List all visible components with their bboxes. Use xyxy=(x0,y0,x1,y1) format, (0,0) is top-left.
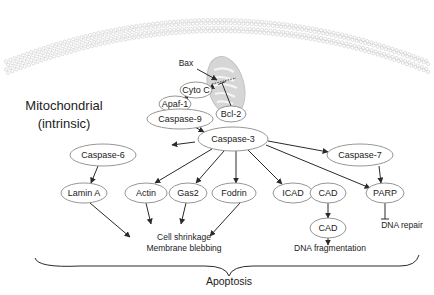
node-label: Caspase-7 xyxy=(338,150,382,160)
label-dna-repair: DNA repair xyxy=(381,220,423,230)
apoptosis-pathway-diagram: Cyto CApaf-1Caspase-9Bcl-2Caspase-3Caspa… xyxy=(0,0,434,295)
node-casp6: Caspase-6 xyxy=(70,144,136,166)
node-label: Cyto C xyxy=(182,85,210,95)
node-cytoc: Cyto C xyxy=(180,82,212,98)
node-actin: Actin xyxy=(125,183,167,203)
node-label: Caspase-9 xyxy=(158,114,202,124)
node-label: Caspase-6 xyxy=(81,150,125,160)
edge-casp3-to-actin xyxy=(155,149,212,183)
pathway-title-line1: Mitochondrial xyxy=(25,98,102,113)
pathway-title-line2: (intrinsic) xyxy=(38,116,91,131)
node-casp7: Caspase-7 xyxy=(327,144,393,166)
apoptosis-label: Apoptosis xyxy=(206,275,252,287)
node-label: Gas2 xyxy=(177,188,199,198)
edge-casp3-to-icad xyxy=(248,150,282,184)
node-icad: ICAD xyxy=(273,183,313,203)
node-label: ICAD xyxy=(282,188,304,198)
node-label: PARP xyxy=(373,188,397,198)
node-label: Bcl-2 xyxy=(221,109,242,119)
node-label: CAD xyxy=(318,223,338,233)
node-label: Lamin A xyxy=(68,188,101,198)
node-cad2: CAD xyxy=(310,218,346,238)
apoptosis-brace xyxy=(35,255,419,276)
node-bcl2: Bcl-2 xyxy=(216,106,246,122)
node-casp9: Caspase-9 xyxy=(147,109,213,129)
node-label: Fodrin xyxy=(221,188,247,198)
edge-gas2-to-cell-shrinkage xyxy=(181,203,186,224)
label-dna-fragmentation: DNA fragmentation xyxy=(294,243,366,253)
edge-casp3-to-casp7 xyxy=(268,141,328,152)
edge-casp3-to-casp6 xyxy=(172,142,195,145)
label-cell-shrinkage: Cell shrinkage xyxy=(157,232,211,242)
node-label: CAD xyxy=(318,188,338,198)
edge-casp6-to-laminA xyxy=(91,166,98,183)
edge-actin-to-cell-shrinkage xyxy=(146,203,151,224)
edge-casp7-to-parp xyxy=(379,166,381,183)
node-gas2: Gas2 xyxy=(169,183,207,203)
label-membrane-blebbing: Membrane blebbing xyxy=(146,243,221,253)
node-laminA: Lamin A xyxy=(61,183,107,203)
node-cad1: CAD xyxy=(310,183,346,203)
node-label: Actin xyxy=(136,188,156,198)
edge-laminA-to-cell-shrinkage xyxy=(90,203,130,237)
edge-parp-to-dna-repair xyxy=(381,203,389,219)
label-bax: Bax xyxy=(179,58,194,68)
node-label: Caspase-3 xyxy=(211,134,255,144)
node-fodrin: Fodrin xyxy=(212,183,256,203)
node-label: Apaf-1 xyxy=(162,99,189,109)
edge-fodrin-to-cell-shrinkage xyxy=(210,203,240,236)
node-parp: PARP xyxy=(366,183,404,203)
node-casp3: Caspase-3 xyxy=(198,127,268,151)
